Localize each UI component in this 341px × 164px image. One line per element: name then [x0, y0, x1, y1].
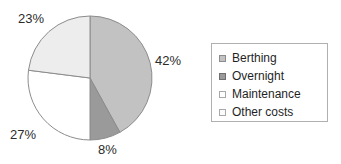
- legend-swatch-icon: [219, 109, 226, 116]
- pie-label-overnight: 8%: [98, 142, 117, 157]
- pie-slice-group: [28, 16, 152, 140]
- legend-swatch-icon: [219, 91, 226, 98]
- legend-item-other-costs: Other costs: [219, 103, 327, 121]
- pie-label-maintenance: 27%: [10, 127, 36, 142]
- legend-item-maintenance: Maintenance: [219, 85, 327, 103]
- legend-swatch-icon: [219, 73, 226, 80]
- chart-legend: Berthing Overnight Maintenance Other cos…: [211, 43, 328, 122]
- legend-item-label: Maintenance: [232, 88, 301, 101]
- legend-item-overnight: Overnight: [219, 67, 327, 85]
- legend-item-label: Other costs: [232, 106, 293, 119]
- legend-item-berthing: Berthing: [219, 49, 327, 67]
- legend-swatch-icon: [219, 55, 226, 62]
- legend-item-label: Berthing: [232, 52, 277, 65]
- legend-item-label: Overnight: [232, 70, 284, 83]
- pie-chart-figure: 42% 8% 27% 23% Berthing Overnight Mainte…: [0, 0, 341, 164]
- pie-label-berthing: 42%: [155, 53, 181, 68]
- pie-slice: [28, 70, 90, 140]
- pie-plot-area: 42% 8% 27% 23%: [0, 0, 205, 164]
- pie-label-other-costs: 23%: [18, 11, 44, 26]
